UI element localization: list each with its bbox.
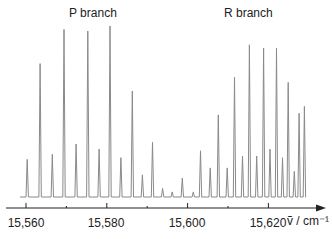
spectrum-chart: P branch R branch 15,560 15,580 15,600 1… bbox=[0, 0, 332, 239]
x-tick-label: 15,600 bbox=[169, 216, 206, 230]
x-tick-label: 15,620 bbox=[250, 216, 287, 230]
x-axis-arrow-icon bbox=[316, 205, 326, 212]
x-tick-label: 15,580 bbox=[88, 216, 125, 230]
x-axis-label: ṽ / cm⁻¹ bbox=[287, 214, 329, 228]
p-branch-label: P branch bbox=[69, 6, 117, 20]
plot-area bbox=[0, 0, 332, 239]
r-branch-label: R branch bbox=[224, 6, 273, 20]
x-tick-label: 15,560 bbox=[8, 216, 45, 230]
spectrum-trace bbox=[20, 26, 306, 197]
